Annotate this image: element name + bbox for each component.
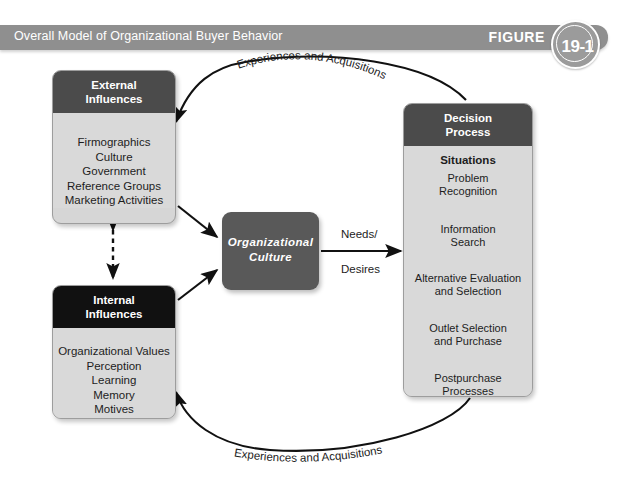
- box-decision-body: Situations Problem Recognition Informati…: [404, 146, 532, 397]
- decision-step: Processes: [404, 385, 532, 397]
- needs-label: Needs/: [341, 228, 377, 240]
- list-item: Emotions: [53, 417, 175, 420]
- external-to-culture-arrow: [178, 206, 217, 237]
- decision-step: and Purchase: [404, 335, 532, 349]
- top-curve-label: Experiences and Acquisitions: [235, 49, 388, 81]
- figure-badge-ring: 19-1: [556, 25, 593, 62]
- list-item: Memory: [53, 388, 175, 403]
- list-item: Firmographics: [53, 135, 175, 150]
- box-decision-process: Decision Process Situations Problem Reco…: [403, 103, 533, 397]
- figure-canvas: Overall Model of Organizational Buyer Be…: [0, 0, 621, 481]
- decision-step: Situations: [404, 154, 532, 168]
- box-culture-label: Organizational Culture: [222, 235, 319, 265]
- box-organizational-culture: Organizational Culture: [222, 212, 319, 290]
- decision-step: and Selection: [404, 285, 532, 299]
- box-culture-title-line1: Organizational: [222, 235, 319, 250]
- decision-step: Outlet Selection: [404, 322, 532, 336]
- box-decision-header: Decision Process: [404, 104, 532, 146]
- list-item: Culture: [53, 150, 175, 165]
- figure-word-label: FIGURE: [489, 29, 546, 45]
- box-external-title-line1: External: [55, 78, 173, 92]
- decision-step: Search: [404, 236, 532, 250]
- box-internal-body: Organizational Values Perception Learnin…: [53, 328, 175, 419]
- figure-number-text: 19-1: [557, 37, 598, 57]
- list-item: Government: [53, 164, 175, 179]
- box-internal-header: Internal Influences: [53, 286, 175, 328]
- box-internal-title-line2: Influences: [55, 307, 173, 321]
- figure-title: Overall Model of Organizational Buyer Be…: [14, 29, 283, 43]
- list-item: Learning: [53, 373, 175, 388]
- bottom-feedback-curve: Experiences and Acquisitions: [176, 392, 470, 464]
- box-external-body: Firmographics Culture Government Referen…: [53, 113, 175, 208]
- internal-to-culture-arrow: [178, 270, 217, 300]
- box-decision-title-line1: Decision: [406, 111, 530, 125]
- figure-header-banner: Overall Model of Organizational Buyer Be…: [0, 25, 608, 50]
- list-item: Marketing Activities: [53, 193, 175, 208]
- decision-step: Recognition: [404, 185, 532, 199]
- decision-step: Information: [404, 223, 532, 237]
- list-item: Organizational Values: [53, 344, 175, 359]
- desires-label: Desires: [341, 263, 380, 275]
- decision-step: Postpurchase: [404, 372, 532, 386]
- box-external-title-line2: Influences: [55, 92, 173, 106]
- bottom-curve-label: Experiences and Acquisitions: [233, 443, 383, 463]
- box-internal-title-line1: Internal: [55, 293, 173, 307]
- decision-step: Problem: [404, 172, 532, 186]
- box-internal-influences: Internal Influences Organizational Value…: [52, 285, 176, 419]
- list-item: Perception: [53, 359, 175, 374]
- decision-step: Alternative Evaluation: [404, 272, 532, 286]
- box-culture-title-line2: Culture: [222, 250, 319, 265]
- list-item: Reference Groups: [53, 179, 175, 194]
- list-item: Motives: [53, 402, 175, 417]
- box-decision-title-line2: Process: [406, 125, 530, 139]
- figure-number-badge: 19-1: [551, 20, 600, 69]
- box-external-influences: External Influences Firmographics Cultur…: [52, 70, 176, 224]
- box-external-header: External Influences: [53, 71, 175, 113]
